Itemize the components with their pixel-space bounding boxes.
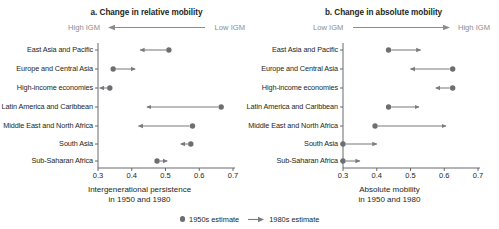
panel-a-axis-title-line2: in 1950 and 1980	[0, 195, 249, 204]
x-tick-label: 0.6	[432, 171, 456, 180]
category-label: South Asia	[304, 139, 338, 148]
data-row	[147, 104, 224, 109]
x-tick-label: 0.3	[86, 171, 110, 180]
legend-item-1980s: 1980s estimate	[248, 215, 319, 224]
panel-relative-mobility: a. Change in relative mobility High IGML…	[0, 0, 249, 205]
x-tick-label: 0.3	[331, 171, 355, 180]
category-label: Sub-Saharan Africa	[32, 156, 93, 165]
panel-b-axis-title-line1: Absolute mobility	[250, 185, 499, 194]
category-label: East Asia and Pacific	[27, 45, 93, 54]
data-row	[411, 66, 456, 71]
category-label: Middle East and North Africa	[248, 121, 338, 130]
category-label: Sub-Saharan Africa	[277, 156, 338, 165]
x-tick-label: 0.6	[187, 171, 211, 180]
data-row	[436, 85, 456, 90]
panel-a-plot-area: East Asia and PacificEurope and Central …	[0, 0, 249, 205]
category-label: High-income economies	[262, 83, 338, 92]
data-row	[139, 123, 196, 128]
data-row	[100, 85, 113, 90]
category-label: Middle East and North Africa	[3, 121, 93, 130]
category-label: High-income economies	[17, 83, 93, 92]
filled-circle-icon	[180, 216, 185, 221]
figure-root: a. Change in relative mobility High IGML…	[0, 0, 499, 229]
chart-legend: 1950s estimate 1980s estimate	[0, 211, 499, 227]
x-tick-label: 0.7	[466, 171, 490, 180]
data-row	[386, 104, 419, 109]
panel-absolute-mobility: b. Change in absolute mobility Low IGMHi…	[250, 0, 499, 205]
panel-a-axis-title-line1: Intergenerational persistence	[0, 185, 249, 194]
data-row	[386, 47, 421, 52]
estimate-1950s-dot	[340, 158, 345, 163]
category-label: Latin America and Caribbean	[2, 102, 93, 111]
estimate-1950s-dot	[450, 85, 455, 90]
estimate-1950s-dot	[190, 123, 195, 128]
data-row	[140, 47, 171, 52]
legend-item-1950s: 1950s estimate	[180, 215, 240, 224]
data-row	[154, 158, 167, 163]
data-row	[340, 158, 360, 163]
estimate-1950s-dot	[386, 104, 391, 109]
data-row	[110, 66, 135, 71]
legend-label-1950s: 1950s estimate	[189, 215, 239, 224]
category-label: Europe and Central Asia	[261, 64, 338, 73]
estimate-1950s-dot	[188, 141, 193, 146]
estimate-1950s-dot	[386, 47, 391, 52]
estimate-1950s-dot	[110, 66, 115, 71]
estimate-1950s-dot	[154, 158, 159, 163]
estimate-1950s-dot	[372, 123, 377, 128]
panel-b-axis-title-line2: in 1950 and 1980	[250, 195, 499, 204]
x-tick-label: 0.7	[221, 171, 245, 180]
data-row	[372, 123, 446, 128]
x-tick-label: 0.5	[399, 171, 423, 180]
estimate-1950s-dot	[218, 104, 223, 109]
x-tick-label: 0.4	[365, 171, 389, 180]
data-row	[181, 141, 194, 146]
legend-label-1980s: 1980s estimate	[269, 215, 319, 224]
category-label: Europe and Central Asia	[16, 64, 93, 73]
category-label: East Asia and Pacific	[272, 45, 338, 54]
x-tick-label: 0.4	[120, 171, 144, 180]
estimate-1950s-dot	[166, 47, 171, 52]
estimate-1950s-dot	[450, 66, 455, 71]
category-label: South Asia	[59, 139, 93, 148]
estimate-1950s-dot	[107, 85, 112, 90]
estimate-1950s-dot	[340, 141, 345, 146]
data-row	[340, 141, 376, 146]
category-label: Latin America and Caribbean	[247, 102, 338, 111]
x-tick-label: 0.5	[154, 171, 178, 180]
panel-b-plot-area: East Asia and PacificEurope and Central …	[250, 0, 499, 205]
right-arrow-icon	[248, 216, 265, 223]
